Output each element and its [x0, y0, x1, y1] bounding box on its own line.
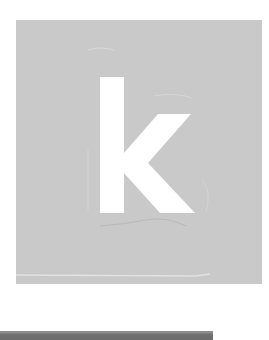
letter-k-logo-icon — [16, 20, 262, 284]
logo-tile: k — [16, 20, 262, 284]
bottom-bar — [0, 331, 213, 340]
